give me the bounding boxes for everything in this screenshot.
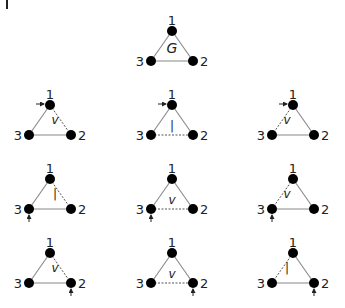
edge-1-2 [172, 105, 193, 135]
node-3 [267, 278, 277, 288]
node-label-1: 1 [46, 161, 54, 176]
node-2 [188, 130, 198, 140]
node-label-2: 2 [78, 128, 86, 143]
edge-1-3 [29, 253, 50, 283]
subgraph-2-2: 123| [257, 235, 330, 296]
edge-label-1-2: | [53, 187, 57, 201]
node-label-2: 2 [321, 128, 329, 143]
edge-label-3-2: v [168, 267, 176, 281]
subgraph-0-2: 123v [257, 87, 330, 143]
node-label-2: 2 [321, 276, 329, 291]
node-label-2: 2 [78, 202, 86, 217]
node-2 [309, 204, 319, 214]
node-3 [24, 278, 34, 288]
node-label-2: 2 [200, 276, 208, 291]
edge-label-3-2: | [170, 119, 174, 133]
node-label-3: 3 [257, 128, 265, 143]
node-3 [146, 56, 156, 66]
node-label-1: 1 [289, 87, 297, 102]
node-2 [309, 278, 319, 288]
subgraph-1-2: 123v [257, 161, 330, 222]
node-label-3: 3 [14, 202, 22, 217]
node-3 [24, 130, 34, 140]
node-3 [146, 204, 156, 214]
node-label-3: 3 [14, 276, 22, 291]
node-label-1: 1 [289, 235, 297, 250]
subgraph-2-1: 123v [136, 235, 209, 296]
subgraph-2-0: 123v [14, 235, 87, 296]
node-label-3: 3 [136, 202, 144, 217]
edge-1-3 [29, 179, 50, 209]
node-2 [66, 278, 76, 288]
node-label-3: 3 [257, 202, 265, 217]
node-label-1: 1 [46, 87, 54, 102]
node-3 [146, 278, 156, 288]
edge-1-3 [29, 105, 50, 135]
node-label-2: 2 [200, 128, 208, 143]
node-label-2: 2 [321, 202, 329, 217]
node-2 [309, 130, 319, 140]
node-label-2: 2 [200, 202, 208, 217]
graph-label-g: G [167, 40, 178, 56]
edge-label-1-3: | [285, 261, 289, 275]
edge-1-2 [293, 105, 314, 135]
root-graph-g: 123G [136, 13, 209, 69]
node-label-3: 3 [257, 276, 265, 291]
node-2 [188, 204, 198, 214]
node-label-3: 3 [136, 276, 144, 291]
node-label-1: 1 [168, 87, 176, 102]
subgraph-1-1: 123v [136, 161, 209, 222]
edge-label-1-3: v [283, 187, 291, 201]
edge-label-1-2: v [51, 261, 59, 275]
node-label-1: 1 [289, 161, 297, 176]
node-2 [188, 278, 198, 288]
graph-diagram: 123G 123v123|123v123|123v123v123v123v123… [0, 0, 345, 308]
edge-1-2 [293, 179, 314, 209]
node-label-3: 3 [136, 128, 144, 143]
node-label-2: 2 [78, 276, 86, 291]
node-3 [267, 130, 277, 140]
node-3 [24, 204, 34, 214]
node-3 [146, 130, 156, 140]
edge-label-3-2: v [168, 193, 176, 207]
edge-1-2 [293, 253, 314, 283]
node-label-1: 1 [168, 235, 176, 250]
edge-1-3 [151, 105, 172, 135]
node-label-2: 2 [200, 54, 208, 69]
subgraph-0-1: 123| [136, 87, 209, 143]
node-2 [66, 204, 76, 214]
subgraph-1-0: 123| [14, 161, 87, 222]
subgraph-grid: 123v123|123v123|123v123v123v123v123| [14, 87, 330, 296]
node-label-1: 1 [168, 13, 176, 28]
node-3 [267, 204, 277, 214]
node-label-3: 3 [14, 128, 22, 143]
node-label-1: 1 [46, 235, 54, 250]
edge-label-1-2: v [51, 113, 59, 127]
node-label-3: 3 [136, 54, 144, 69]
subgraph-0-0: 123v [14, 87, 87, 143]
node-2 [66, 130, 76, 140]
edge-label-1-3: v [283, 113, 291, 127]
dashed-edge-1-3 [272, 253, 293, 283]
node-2 [188, 56, 198, 66]
node-label-1: 1 [168, 161, 176, 176]
